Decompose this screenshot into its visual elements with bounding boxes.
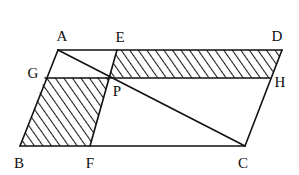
vertex-label-G: G (28, 66, 39, 81)
vertex-label-B: B (14, 156, 24, 171)
vertex-label-C: C (238, 156, 248, 171)
geometry-figure: A E D G H P B F C (0, 0, 299, 175)
geometry-canvas (0, 0, 299, 175)
vertex-label-D: D (272, 29, 283, 44)
vertex-label-E: E (115, 30, 124, 45)
vertex-label-H: H (275, 75, 286, 90)
vertex-label-P: P (113, 84, 121, 99)
vertex-label-F: F (86, 156, 94, 171)
region-EDHP-hatch (110, 50, 282, 78)
vertex-label-A: A (57, 29, 68, 44)
